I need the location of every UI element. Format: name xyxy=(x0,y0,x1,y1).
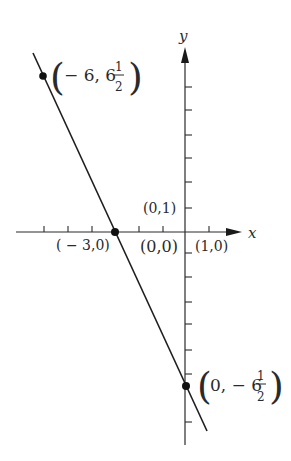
y-axis-label: y xyxy=(178,27,188,45)
svg-text:2: 2 xyxy=(115,80,123,94)
point-top xyxy=(39,72,47,80)
svg-text:1: 1 xyxy=(257,369,265,383)
svg-text:): ) xyxy=(128,55,143,99)
point-y-intercept xyxy=(182,382,190,390)
x-ticks xyxy=(44,226,209,232)
y-ticks xyxy=(185,87,192,422)
label-unit-y: (0,1) xyxy=(143,200,176,216)
label-origin: (0,0) xyxy=(140,237,178,256)
label-unit-x: (1,0) xyxy=(195,238,228,254)
label-top-point: ( − 6, 6 1 2 ) xyxy=(50,55,143,99)
svg-text:− 6, 6: − 6, 6 xyxy=(64,65,116,85)
svg-text:1: 1 xyxy=(115,60,123,74)
y-arrow-icon xyxy=(181,47,189,63)
label-x-intercept: ( − 3,0) xyxy=(56,237,110,253)
x-axis-label: x xyxy=(248,224,257,242)
svg-text:(: ( xyxy=(50,55,65,99)
svg-text:2: 2 xyxy=(257,390,265,404)
point-x-intercept xyxy=(111,228,119,236)
label-bottom-point: ( 0, − 6 1 2 ) xyxy=(197,364,284,408)
svg-text:0, − 6: 0, − 6 xyxy=(210,375,262,395)
x-arrow-icon xyxy=(226,228,242,236)
svg-text:): ) xyxy=(269,364,284,408)
line-graph: x y ( − 6, 6 1 2 ) xyxy=(0,0,291,461)
